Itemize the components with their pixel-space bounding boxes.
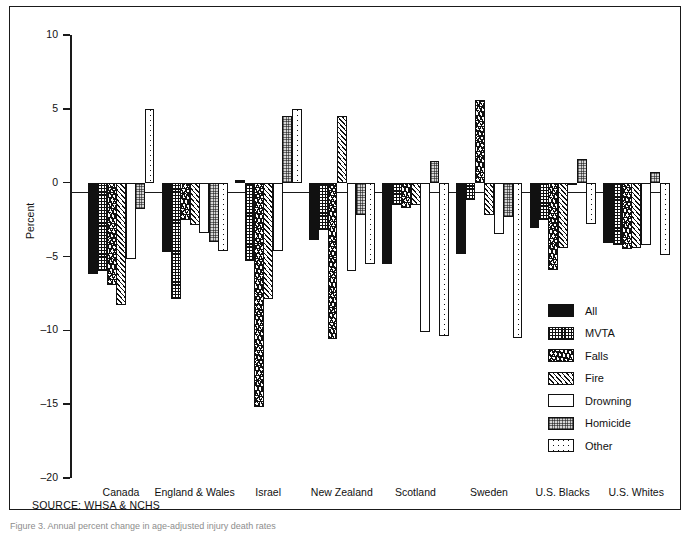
x-axis-label: U.S. Whites: [586, 486, 686, 498]
bar: [318, 183, 328, 230]
legend-item: Other: [548, 439, 668, 452]
bar: [603, 183, 613, 244]
bar: [494, 183, 504, 235]
y-tick-label: –5: [30, 250, 58, 262]
legend-item: Falls: [548, 349, 668, 362]
legend-item: MVTA: [548, 327, 668, 340]
bar: [660, 183, 670, 255]
legend-swatch: [548, 372, 574, 385]
figure-caption: Figure 3. Annual percent change in age-a…: [10, 521, 682, 531]
bar: [641, 183, 651, 245]
legend-item: Fire: [548, 372, 668, 385]
bar: [180, 183, 190, 220]
bar: [613, 183, 623, 245]
bar: [273, 183, 283, 251]
bar: [145, 109, 155, 183]
bar: [586, 183, 596, 224]
source-note: SOURCE: WHSA & NCHS: [32, 499, 160, 511]
legend: AllMVTAFallsFireDrowningHomicideOther: [548, 304, 668, 462]
legend-label: Homicide: [585, 417, 631, 429]
bar: [650, 172, 660, 182]
y-tick-label: 0: [30, 176, 58, 188]
bar: [530, 183, 540, 229]
bar: [465, 183, 475, 201]
legend-swatch: [548, 349, 574, 362]
y-tick: [63, 182, 70, 183]
legend-label: Other: [585, 440, 613, 452]
bar: [356, 183, 366, 215]
bar: [190, 183, 200, 226]
bar: [392, 183, 402, 205]
y-tick: [63, 403, 70, 404]
y-tick-label: –20: [30, 471, 58, 483]
bar: [218, 183, 228, 251]
legend-item: Drowning: [548, 394, 668, 407]
y-tick-label: –10: [30, 323, 58, 335]
y-tick: [63, 330, 70, 331]
legend-label: MVTA: [585, 327, 615, 339]
bar: [513, 183, 523, 338]
legend-item: Homicide: [548, 417, 668, 430]
bar: [365, 183, 375, 264]
bar: [577, 159, 587, 183]
figure-page: 1050–5–10–15–20 Percent CanadaEngland & …: [0, 0, 692, 535]
figure-frame: 1050–5–10–15–20 Percent CanadaEngland & …: [9, 6, 681, 510]
bar: [430, 161, 440, 183]
legend-swatch: [548, 439, 574, 452]
bar: [382, 183, 392, 264]
bar: [558, 183, 568, 248]
bar: [622, 183, 632, 249]
bar: [254, 183, 264, 407]
bar: [282, 116, 292, 182]
legend-label: Falls: [585, 350, 608, 362]
bar: [135, 183, 145, 210]
y-tick-label: 5: [30, 102, 58, 114]
legend-swatch: [548, 417, 574, 430]
bar: [439, 183, 449, 337]
bar: [401, 183, 411, 208]
legend-item: All: [548, 304, 668, 317]
bar: [420, 183, 430, 332]
bar: [631, 183, 641, 248]
bar: [162, 183, 172, 252]
y-tick-label: 10: [30, 28, 58, 40]
bar: [107, 183, 117, 285]
bar: [347, 183, 357, 272]
y-tick-label: –15: [30, 397, 58, 409]
bar: [209, 183, 219, 242]
bar: [116, 183, 126, 306]
bar: [548, 183, 558, 270]
bar: [97, 183, 107, 272]
legend-swatch: [548, 304, 574, 317]
bar: [484, 183, 494, 215]
legend-swatch: [548, 394, 574, 407]
bar: [292, 109, 302, 183]
bar: [245, 183, 255, 261]
bar: [171, 183, 181, 300]
legend-swatch: [548, 327, 574, 340]
bar: [328, 183, 338, 340]
bar: [126, 183, 136, 260]
y-tick: [63, 256, 70, 257]
bar: [199, 183, 209, 233]
bar: [456, 183, 466, 254]
bar: [567, 183, 577, 185]
bar: [411, 183, 421, 205]
bar: [337, 116, 347, 182]
bar: [539, 183, 549, 220]
bar: [235, 180, 245, 183]
bar: [309, 183, 319, 241]
y-tick: [63, 108, 70, 109]
legend-label: Fire: [585, 372, 604, 384]
bar: [88, 183, 98, 275]
legend-label: Drowning: [585, 395, 631, 407]
y-axis-line: [70, 35, 72, 478]
y-tick: [63, 34, 70, 35]
bar: [475, 100, 485, 183]
bar: [503, 183, 513, 217]
y-tick: [63, 477, 70, 478]
legend-label: All: [585, 305, 597, 317]
y-axis-label: Percent: [24, 203, 36, 239]
bar: [263, 183, 273, 300]
